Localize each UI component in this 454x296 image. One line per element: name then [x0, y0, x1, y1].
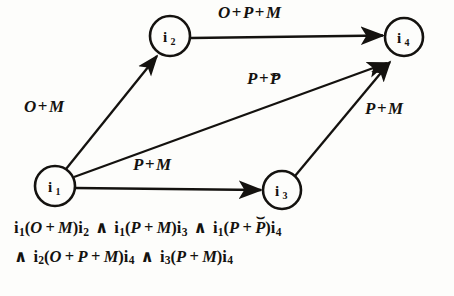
node-i4[interactable]: i 4 [385, 18, 423, 56]
node-i2[interactable]: i 2 [150, 16, 190, 56]
edge-lines [66, 36, 390, 191]
conjunction-4: ∧ [134, 247, 159, 266]
node-i3[interactable]: i 3 [263, 171, 301, 209]
formula-term-5: i3(P + M)i4 [160, 247, 233, 266]
edge-line-i1-i3 [75, 188, 261, 190]
conjunction-2: ∧ [187, 218, 212, 237]
formula-term-4: i2(O + P + M)i4 [33, 247, 134, 266]
node-subscript-i3: 3 [283, 190, 288, 201]
node-subscript-i4: 4 [405, 37, 410, 48]
node-label-i1: i [48, 179, 52, 195]
node-label-i4: i [397, 30, 401, 46]
edge-label-i2-i4: O+P+M [218, 4, 282, 21]
formula-block: i1(O + M)i2∧i1(P + M)i3∧i1(P + P⌣)i4 ∧i2… [14, 214, 444, 272]
node-label-i2: i [163, 29, 167, 45]
edge-line-i2-i4 [191, 36, 383, 39]
node-subscript-i2: 2 [171, 36, 176, 47]
formula-term-2: i1(P + M)i3 [114, 218, 187, 237]
formula-term-3: i1(P + P⌣)i4 [213, 218, 282, 237]
formula-line-2: ∧i2(O + P + M)i4∧i3(P + M)i4 [14, 243, 444, 272]
node-label-i3: i [275, 183, 279, 199]
formula-line-1: i1(O + M)i2∧i1(P + M)i3∧i1(P + P⌣)i4 [14, 214, 444, 243]
edge-line-i1-i4 [74, 63, 387, 177]
relation-graph-figure: i 1 i 2 i 3 i 4 O+M O+P+M P+P⌣ P+M P+M [0, 0, 454, 296]
node-subscript-i1: 1 [56, 186, 61, 197]
conjunction-3: ∧ [14, 247, 33, 266]
edge-label-i1-i3: P+M [133, 156, 172, 173]
conjunction-1: ∧ [89, 218, 114, 237]
formula-term-1: i1(O + M)i2 [14, 218, 89, 237]
edge-label-i1-i2: O+M [24, 98, 65, 115]
node-i1[interactable]: i 1 [35, 166, 75, 206]
edge-label-i1-i4: P+P⌣ [247, 70, 281, 87]
edge-label-i3-i4: P+M [365, 100, 404, 117]
